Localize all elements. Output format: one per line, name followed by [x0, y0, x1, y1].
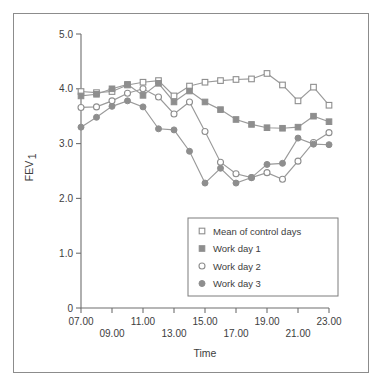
data-point-marker: [218, 165, 224, 171]
data-point-marker: [109, 86, 115, 92]
data-point-marker: [233, 180, 239, 186]
chart-series-layer: [78, 71, 332, 186]
legend-item-label: Mean of control days: [213, 226, 301, 237]
chart-series-4: [78, 98, 332, 186]
data-point-marker: [295, 124, 301, 130]
legend-marker-icon: [199, 246, 205, 252]
figure-root: 01.02.03.04.05.007.0009.0011.0013.0015.0…: [0, 0, 385, 391]
data-point-marker: [249, 175, 255, 181]
data-point-marker: [202, 129, 208, 135]
data-point-marker: [125, 98, 131, 104]
data-point-marker: [249, 76, 255, 82]
data-point-marker: [311, 84, 317, 90]
x-axis-title: Time: [194, 347, 217, 359]
x-axis-tick-label: 23.00: [316, 316, 341, 327]
legend-marker-icon: [199, 281, 205, 287]
x-axis-tick-label: 13.00: [161, 328, 186, 339]
fev1-line-chart: 01.02.03.04.05.007.0009.0011.0013.0015.0…: [0, 0, 385, 391]
data-point-marker: [264, 71, 270, 77]
data-point-marker: [171, 99, 177, 105]
y-axis-title-text: FEV: [23, 161, 35, 181]
data-point-marker: [311, 141, 317, 147]
data-point-marker: [264, 161, 270, 167]
data-point-marker: [94, 114, 100, 120]
x-axis-tick-label: 21.00: [285, 328, 310, 339]
data-point-marker: [202, 99, 208, 105]
data-point-marker: [311, 113, 317, 119]
series-polyline: [81, 101, 329, 183]
data-point-marker: [233, 77, 239, 83]
y-axis-title-subscript: 1: [26, 153, 38, 159]
data-point-marker: [202, 180, 208, 186]
legend-marker-icon: [199, 228, 205, 234]
data-point-marker: [233, 171, 239, 177]
data-point-marker: [295, 135, 301, 141]
legend-item-label: Work day 3: [213, 278, 261, 289]
data-point-marker: [156, 126, 162, 132]
data-point-marker: [326, 130, 332, 136]
data-point-marker: [218, 159, 224, 165]
series-polyline: [81, 83, 329, 128]
data-point-marker: [171, 93, 177, 99]
data-point-marker: [295, 98, 301, 104]
data-point-marker: [140, 104, 146, 110]
y-axis-tick-label: 4.0: [59, 83, 73, 94]
y-axis-tick-label: 5.0: [59, 29, 73, 40]
y-axis-tick-label: 0: [67, 303, 73, 314]
data-point-marker: [187, 148, 193, 154]
data-point-marker: [156, 94, 162, 100]
data-point-marker: [218, 78, 224, 84]
data-point-marker: [78, 124, 84, 130]
data-point-marker: [280, 160, 286, 166]
data-point-marker: [218, 107, 224, 113]
data-point-marker: [249, 122, 255, 128]
legend-item-label: Work day 1: [213, 243, 261, 254]
data-point-marker: [264, 170, 270, 176]
y-axis-title: FEV1: [23, 153, 38, 181]
data-point-marker: [140, 79, 146, 85]
legend-marker-icon: [199, 263, 205, 269]
data-point-marker: [202, 79, 208, 85]
legend-item-label: Work day 2: [213, 261, 261, 272]
x-axis-tick-label: 09.00: [99, 328, 124, 339]
data-point-marker: [233, 117, 239, 123]
data-point-marker: [156, 81, 162, 87]
data-point-marker: [140, 93, 146, 99]
legend-item-1[interactable]: Mean of control days: [199, 226, 301, 237]
y-axis-tick-label: 2.0: [59, 193, 73, 204]
data-point-marker: [264, 125, 270, 131]
data-point-marker: [125, 82, 131, 88]
data-point-marker: [171, 127, 177, 133]
data-point-marker: [94, 91, 100, 97]
chart-legend: Mean of control daysWork day 1Work day 2…: [188, 218, 338, 296]
data-point-marker: [326, 102, 332, 108]
data-point-marker: [295, 158, 301, 164]
data-point-marker: [78, 93, 84, 99]
data-point-marker: [280, 125, 286, 131]
data-point-marker: [140, 86, 146, 92]
data-point-marker: [326, 119, 332, 125]
chart-labels-layer: 01.02.03.04.05.007.0009.0011.0013.0015.0…: [23, 29, 342, 360]
data-point-marker: [94, 104, 100, 110]
data-point-marker: [125, 90, 131, 96]
chart-series-2: [78, 81, 332, 132]
y-axis-tick-label: 1.0: [59, 248, 73, 259]
data-point-marker: [171, 111, 177, 117]
data-point-marker: [280, 82, 286, 88]
data-point-marker: [326, 142, 332, 148]
data-point-marker: [187, 88, 193, 94]
x-axis-tick-label: 17.00: [223, 328, 248, 339]
data-point-marker: [280, 176, 286, 182]
x-axis-tick-label: 11.00: [131, 316, 156, 327]
y-axis-tick-label: 3.0: [59, 138, 73, 149]
x-axis-tick-label: 15.00: [192, 316, 217, 327]
x-axis-tick-label: 19.00: [254, 316, 279, 327]
data-point-marker: [109, 103, 115, 109]
x-axis-tick-label: 07.00: [68, 316, 93, 327]
data-point-marker: [187, 99, 193, 105]
data-point-marker: [78, 104, 84, 110]
